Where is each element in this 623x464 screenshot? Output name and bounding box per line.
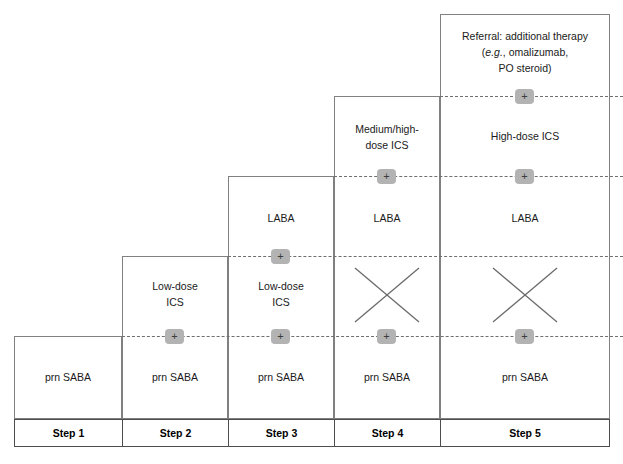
step-5-referral-line-2: (e.g., omalizumab, — [440, 44, 610, 60]
plus-badge-step2-saba: + — [165, 329, 184, 344]
step-2-saba-label: prn SABA — [122, 370, 228, 385]
footer-label-step-2: Step 2 — [123, 420, 229, 446]
footer-label-step-1: Step 1 — [15, 420, 123, 446]
plus-badge-step3-laba: + — [271, 249, 290, 264]
step-5-laba-label: LABA — [440, 211, 610, 226]
plus-badge-step3-saba: + — [271, 329, 290, 344]
step-5-ics-label: High-dose ICS — [440, 129, 610, 144]
plus-badge-step4-ics: + — [377, 169, 396, 184]
plus-badge-step4-saba: + — [377, 329, 396, 344]
step-2-ics-line-1: Low-dose — [122, 278, 228, 294]
step-4-ics-line-1: Medium/high- — [330, 121, 444, 137]
plus-badge-step5-referral: + — [515, 89, 534, 104]
step-5-referral-label: Referral: additional therapy (e.g., omal… — [440, 28, 610, 76]
step-5-referral-drug: , omalizumab, — [503, 46, 568, 58]
step-3-saba-label: prn SABA — [228, 370, 334, 385]
dashed-rule-tier-saba — [122, 336, 623, 337]
footer-label-step-3: Step 3 — [229, 420, 335, 446]
cross-mark-step-4 — [352, 265, 422, 325]
step-5-referral-eg: e.g. — [485, 46, 503, 58]
step-5-referral-line-1: Referral: additional therapy — [440, 28, 610, 44]
step-3-ics-line-1: Low-dose — [228, 278, 334, 294]
step-3-laba-label: LABA — [228, 211, 334, 226]
step-2-ics-line-2: ICS — [122, 294, 228, 310]
step-3-ics-line-2: ICS — [228, 294, 334, 310]
footer-label-step-4: Step 4 — [335, 420, 441, 446]
asthma-stepwise-diagram: + + + + + + + + prn SABA Low-dose ICS pr… — [0, 0, 623, 464]
step-4-laba-label: LABA — [334, 211, 440, 226]
plus-badge-step5-saba: + — [515, 329, 534, 344]
step-5-referral-line-3: PO steroid) — [440, 60, 610, 76]
step-5-saba-label: prn SABA — [440, 370, 610, 385]
step-4-saba-label: prn SABA — [334, 370, 440, 385]
step-1-saba-label: prn SABA — [14, 370, 122, 385]
cross-mark-step-5 — [490, 265, 560, 325]
step-2-ics-label: Low-dose ICS — [122, 278, 228, 310]
step-4-ics-line-2: dose ICS — [330, 137, 444, 153]
step-label-band: Step 1 Step 2 Step 3 Step 4 Step 5 — [14, 419, 610, 447]
plus-badge-step5-ics: + — [515, 169, 534, 184]
footer-label-step-5: Step 5 — [441, 420, 609, 446]
step-3-ics-label: Low-dose ICS — [228, 278, 334, 310]
step-4-ics-label: Medium/high- dose ICS — [330, 121, 444, 153]
